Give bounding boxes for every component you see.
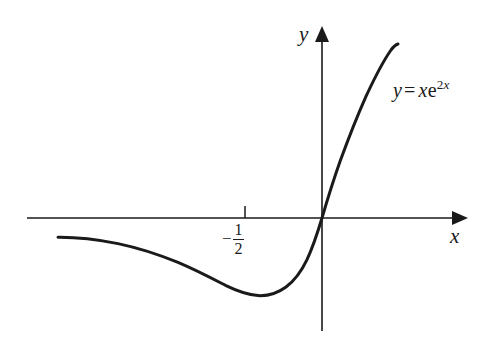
equation-equals-sign: = <box>404 79 415 101</box>
x-axis-arrowhead <box>452 211 468 225</box>
equation-exponent: 2x <box>437 77 450 92</box>
equation-exponent-variable: x <box>444 77 450 92</box>
equation-lhs-y: y <box>393 79 402 101</box>
function-curve <box>58 44 398 296</box>
function-graph-figure: y x y=xe2x − 1 2 <box>0 0 496 341</box>
minus-sign: − <box>222 230 232 247</box>
axis-label-y: y <box>299 24 308 45</box>
graph-canvas <box>0 0 496 341</box>
curve-equation-label: y=xe2x <box>393 80 450 100</box>
fraction-denominator: 2 <box>233 240 245 257</box>
equation-base-e: e <box>428 79 437 101</box>
equation-variable-x: x <box>419 79 428 101</box>
y-axis-arrowhead <box>315 26 329 42</box>
equation-exponent-coefficient: 2 <box>437 77 444 92</box>
tick-label-minus-one-half: − 1 2 <box>222 222 245 257</box>
fraction-numerator: 1 <box>233 222 245 239</box>
fraction-one-half: 1 2 <box>233 222 245 257</box>
axis-label-x: x <box>450 226 459 247</box>
